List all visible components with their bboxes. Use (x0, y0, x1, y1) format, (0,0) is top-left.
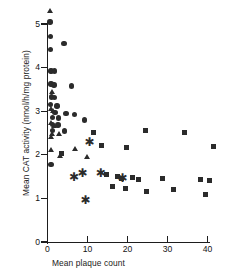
data-point-circle (69, 83, 74, 88)
x-tick-mark (87, 236, 88, 242)
data-point-square (203, 192, 208, 197)
data-point-square (91, 130, 96, 135)
y-tick-label: 4 (0, 62, 40, 72)
data-point-square (136, 177, 141, 182)
y-tick-mark (41, 23, 47, 24)
y-tick-label-text: 5 (18, 19, 40, 29)
x-tick-label: 0 (33, 244, 63, 254)
y-tick-label-text: 4 (18, 62, 40, 72)
x-tick-label: 20 (113, 244, 143, 254)
x-tick-mark (127, 236, 128, 242)
data-point-asterisk: ✱ (85, 136, 94, 148)
y-tick-label: 1 (0, 193, 40, 203)
data-point-square (143, 128, 148, 133)
y-tick-label-text: 3 (18, 106, 40, 116)
y-tick-label-text: 1 (18, 193, 40, 203)
data-point-circle (56, 115, 61, 120)
data-point-square (110, 184, 115, 189)
x-tick-mark (207, 236, 208, 242)
data-point-circle (51, 82, 56, 87)
data-point-circle (52, 68, 57, 73)
x-axis-label: Mean plaque count (52, 258, 125, 268)
scatter-plot-figure: Mean CAT activity (nmol/h/mg protein) Me… (0, 0, 251, 280)
y-tick-mark (41, 111, 47, 112)
data-point-triangle (56, 131, 62, 136)
data-point-square (198, 177, 203, 182)
data-point-circle (61, 41, 66, 46)
data-point-triangle (48, 134, 54, 139)
data-point-circle (50, 115, 55, 120)
y-tick-label: 2 (0, 149, 40, 159)
data-point-triangle (49, 89, 55, 94)
y-tick-mark (41, 67, 47, 68)
data-point-triangle (47, 8, 53, 13)
data-point-circle (63, 111, 68, 116)
data-point-square (160, 176, 165, 181)
y-tick-mark (41, 154, 47, 155)
data-point-asterisk: ✱ (77, 167, 86, 179)
data-point-triangle (48, 147, 54, 152)
y-tick-label: 3 (0, 106, 40, 116)
data-point-circle (62, 128, 67, 133)
y-tick-label-text: 2 (18, 149, 40, 159)
data-point-triangle (72, 146, 78, 151)
data-point-circle (52, 95, 57, 100)
data-point-square (171, 187, 176, 192)
data-point-triangle (50, 108, 56, 113)
data-point-circle (48, 47, 53, 52)
x-tick-label: 30 (153, 244, 183, 254)
x-tick-mark (47, 236, 48, 242)
data-point-square (130, 175, 135, 180)
data-point-square (182, 130, 187, 135)
data-point-square (59, 151, 64, 156)
data-point-triangle (51, 123, 57, 128)
x-tick-mark (167, 236, 168, 242)
x-tick-label: 40 (193, 244, 223, 254)
y-tick-label: 5 (0, 19, 40, 29)
data-point-square (99, 143, 104, 148)
y-tick-mark (41, 198, 47, 199)
data-point-square (211, 144, 216, 149)
data-point-circle (48, 162, 53, 167)
data-point-triangle (84, 154, 90, 159)
data-point-circle (82, 117, 87, 122)
x-tick-label: 10 (73, 244, 103, 254)
data-point-square (207, 178, 212, 183)
data-point-square (144, 189, 149, 194)
data-point-circle (47, 19, 52, 24)
data-point-circle (72, 112, 77, 117)
data-point-square (123, 186, 128, 191)
data-point-circle (48, 34, 53, 39)
data-point-asterisk: ✱ (81, 194, 90, 206)
data-point-asterisk: ✱ (96, 167, 105, 179)
data-point-asterisk: ✱ (117, 172, 126, 184)
data-point-square (124, 145, 129, 150)
